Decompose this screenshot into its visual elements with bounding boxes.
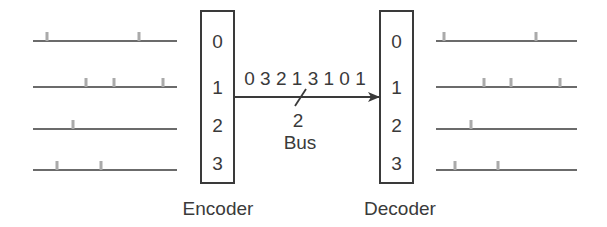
signal-pulse bbox=[483, 78, 486, 87]
input-signal-line-2 bbox=[33, 120, 177, 129]
signal-pulse bbox=[85, 78, 88, 87]
output-signal-line-3 bbox=[436, 161, 577, 170]
decoder-label: Decoder bbox=[364, 198, 436, 219]
encoder-port-0: 0 bbox=[212, 31, 223, 52]
encoder-port-1: 1 bbox=[212, 77, 223, 98]
signal-pulse bbox=[510, 78, 513, 87]
encoder-port-2: 2 bbox=[212, 115, 223, 136]
signal-pulse bbox=[138, 32, 141, 41]
signal-pulse bbox=[162, 78, 165, 87]
decoder-block: 0 1 2 3 Decoder bbox=[364, 11, 436, 219]
decoder-port-3: 3 bbox=[391, 153, 402, 174]
signal-pulse bbox=[100, 161, 103, 170]
signal-pulse bbox=[559, 78, 562, 87]
signal-pulse bbox=[46, 32, 49, 41]
bus-label: Bus bbox=[284, 132, 317, 153]
bus: 0 3 2 1 3 1 0 1 2 Bus bbox=[235, 68, 379, 153]
encoder-decoder-bus-diagram: 0 1 2 3 Encoder 0 1 2 3 Decoder 0 3 2 1 … bbox=[0, 0, 607, 227]
signal-pulse bbox=[72, 120, 75, 129]
signal-pulse bbox=[470, 120, 473, 129]
decoder-port-1: 1 bbox=[391, 77, 402, 98]
bus-sequence: 0 3 2 1 3 1 0 1 bbox=[244, 68, 366, 89]
signal-pulse bbox=[454, 161, 457, 170]
signal-pulse bbox=[113, 78, 116, 87]
encoder-label: Encoder bbox=[183, 198, 254, 219]
encoder-port-3: 3 bbox=[212, 153, 223, 174]
input-signal-line-3 bbox=[33, 161, 177, 170]
output-signal-line-1 bbox=[436, 78, 577, 87]
input-signal-lines bbox=[33, 32, 177, 170]
input-signal-line-1 bbox=[33, 78, 177, 87]
signal-pulse bbox=[56, 161, 59, 170]
encoder-block: 0 1 2 3 Encoder bbox=[183, 11, 254, 219]
signal-pulse bbox=[443, 32, 446, 41]
output-signal-line-0 bbox=[436, 32, 577, 41]
decoder-port-2: 2 bbox=[391, 115, 402, 136]
signal-pulse bbox=[497, 161, 500, 170]
bus-width-label: 2 bbox=[293, 110, 304, 131]
decoder-port-0: 0 bbox=[391, 31, 402, 52]
input-signal-line-0 bbox=[33, 32, 177, 41]
output-signal-lines bbox=[436, 32, 577, 170]
signal-pulse bbox=[535, 32, 538, 41]
output-signal-line-2 bbox=[436, 120, 577, 129]
